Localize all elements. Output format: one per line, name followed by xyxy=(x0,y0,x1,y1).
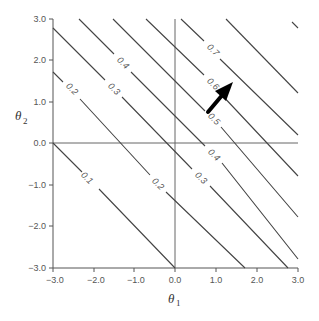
contour-label-0.3: 0.3 xyxy=(193,170,209,186)
x-tick-label: 0.0 xyxy=(169,275,182,285)
y-tick-label: −1.0 xyxy=(28,180,46,190)
contour-line-0.7 xyxy=(181,19,298,135)
y-tick-label: −3.0 xyxy=(28,263,46,273)
contour-line-0.9 xyxy=(292,22,298,28)
x-tick-label: 3.0 xyxy=(292,275,305,285)
svg-text:θ: θ xyxy=(168,291,175,306)
y-tick-label: 2.0 xyxy=(33,55,46,65)
y-tick-label: 3.0 xyxy=(33,14,46,24)
contour-label-0.7: 0.7 xyxy=(205,42,222,59)
contour-plot: 3.0 2.0 1.0 0.0 −1.0 −2.0 −3.0 −3.0 −2.0… xyxy=(0,0,319,321)
svg-text:2: 2 xyxy=(23,116,28,126)
y-tick-label: 0.0 xyxy=(33,138,46,148)
x-tick-label: −1.0 xyxy=(127,275,145,285)
y-ticks xyxy=(49,19,53,268)
x-tick-label: −3.0 xyxy=(46,275,64,285)
x-tick-label: 1.0 xyxy=(210,275,223,285)
y-axis-label: θ 2 xyxy=(15,108,28,126)
contour-line-0.8 xyxy=(226,19,298,93)
x-tick-label: 2.0 xyxy=(251,275,264,285)
y-tick-label: −2.0 xyxy=(28,221,46,231)
x-axis-label: θ 1 xyxy=(168,291,181,308)
svg-text:θ: θ xyxy=(15,108,22,123)
contour-label-0.4: 0.4 xyxy=(115,55,131,71)
contour-label-0.3: 0.3 xyxy=(106,81,122,97)
x-ticks xyxy=(53,268,298,272)
contour-line-0.1 xyxy=(53,143,175,268)
contour-label-0.2: 0.2 xyxy=(150,176,166,192)
contour-label-0.4: 0.4 xyxy=(206,147,222,163)
contour-line-0.4 xyxy=(79,19,298,259)
y-tick-label: 1.0 xyxy=(33,97,46,107)
svg-text:1: 1 xyxy=(176,298,181,308)
x-tick-label: −2.0 xyxy=(87,275,105,285)
contour-label-0.2: 0.2 xyxy=(64,81,80,97)
contour-line-0.3 xyxy=(53,28,288,268)
